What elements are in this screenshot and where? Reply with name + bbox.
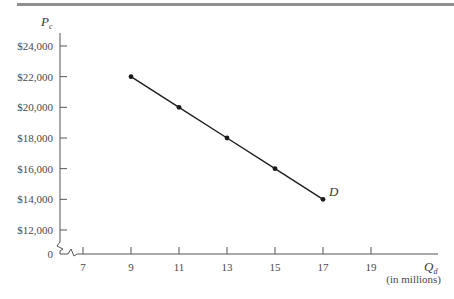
x-tick-label: 15	[270, 261, 282, 273]
x-tick-label: 11	[174, 261, 185, 273]
origin-label: 0	[48, 248, 54, 260]
x-tick-label: 17	[318, 261, 330, 273]
demand-curve: D	[129, 74, 339, 201]
top-rule	[17, 3, 454, 6]
y-axis-line	[57, 33, 63, 254]
x-tick-label: 7	[80, 261, 86, 273]
data-point	[129, 74, 134, 79]
x-axis-unit-note: (in millions)	[386, 273, 441, 286]
y-tick-label: $20,000	[17, 101, 53, 113]
y-axis: $12,000$14,000$16,000$18,000$20,000$22,0…	[17, 33, 67, 260]
y-tick-label: $22,000	[17, 71, 53, 83]
data-point	[273, 166, 278, 171]
y-tick-label: $12,000	[17, 224, 53, 236]
x-tick-label: 13	[222, 261, 234, 273]
data-point	[177, 105, 182, 110]
demand-chart: $12,000$14,000$16,000$18,000$20,000$22,0…	[0, 0, 454, 299]
y-tick-label: $18,000	[17, 132, 53, 144]
axis-titles: PcQd(in millions)	[40, 14, 441, 286]
y-tick-label: $16,000	[17, 163, 53, 175]
x-axis: 791113151719	[60, 247, 438, 273]
y-axis-title: Pc	[40, 14, 53, 31]
x-tick-label: 19	[366, 261, 378, 273]
y-tick-label: $24,000	[17, 40, 53, 52]
curve-label: D	[328, 184, 339, 199]
x-axis-line	[60, 249, 438, 256]
x-tick-label: 9	[128, 261, 134, 273]
data-point	[321, 197, 326, 202]
data-point	[225, 136, 230, 141]
y-tick-label: $14,000	[17, 193, 53, 205]
